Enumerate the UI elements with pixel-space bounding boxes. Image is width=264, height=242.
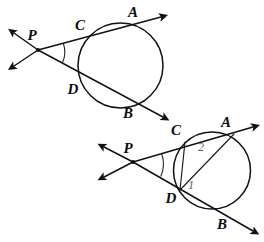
back-ray-lower-left-bottom xyxy=(104,162,133,177)
point-label-A-top: A xyxy=(127,4,138,20)
point-label-C-top: C xyxy=(75,17,86,33)
angle-arc-at-P-bottom xyxy=(161,154,164,177)
bottom-diagram: P C A D B 2 1 xyxy=(104,114,253,232)
back-ray-lower-left-top xyxy=(14,50,38,66)
angle-arc-at-P-top xyxy=(62,43,65,63)
top-diagram: P C A D B xyxy=(14,4,163,121)
point-label-B-bottom: B xyxy=(216,216,227,232)
point-label-D-bottom: D xyxy=(165,190,177,206)
point-label-C-bottom: C xyxy=(171,122,182,138)
secant-ray-PDB-top xyxy=(38,50,163,117)
point-label-B-top: B xyxy=(122,105,133,121)
geometry-canvas: P C A D B P C A xyxy=(0,0,264,242)
vertex-dot-P-top xyxy=(36,48,40,52)
secant-ray-PCA-bottom xyxy=(133,127,253,162)
angle-label-2-bottom: 2 xyxy=(198,141,204,153)
point-label-A-bottom: A xyxy=(220,114,231,130)
point-label-P-bottom: P xyxy=(123,140,133,156)
point-label-P-top: P xyxy=(27,27,37,43)
secant-ray-PCA-top xyxy=(38,17,161,50)
geometry-figure: P C A D B P C A xyxy=(0,0,264,242)
point-label-D-top: D xyxy=(67,81,79,97)
angle-label-1-bottom: 1 xyxy=(188,179,194,191)
vertex-dot-P-bottom xyxy=(131,160,135,164)
secant-ray-PDB-bottom xyxy=(133,162,253,231)
